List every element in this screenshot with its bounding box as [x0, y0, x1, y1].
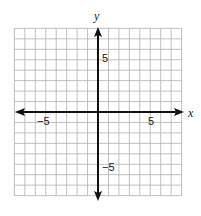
y-axis-label: y	[93, 9, 100, 23]
coordinate-plane: x y −5 5 5 −5	[0, 0, 201, 216]
y-tick-label-neg5: −5	[102, 161, 115, 173]
x-tick-label-5: 5	[148, 115, 154, 127]
x-tick-label-neg5: −5	[37, 115, 50, 127]
x-axis-label: x	[187, 106, 194, 120]
y-tick-label-5: 5	[102, 52, 108, 64]
